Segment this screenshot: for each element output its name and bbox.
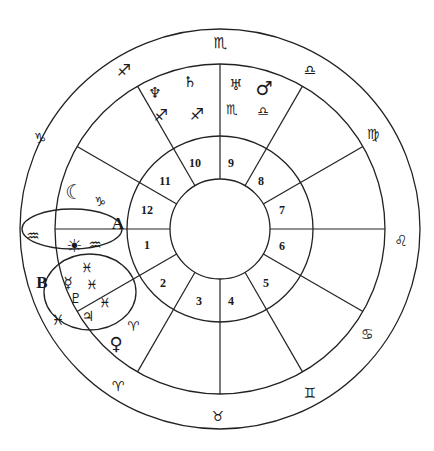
aries-icon: ♈ [112, 378, 125, 394]
cancer-icon: ♋ [361, 326, 374, 342]
taurus-icon: ♉ [212, 408, 225, 424]
planet-placements: ♆ ♄ ♐ ♐ ♅ ♂ ♏ ♎ ☾ ♑ ☀ ♒ ♓ ☿ ♓ ♇ ♓ ♃ ♓ ♈ … [52, 73, 273, 354]
house-number: 10 [189, 156, 201, 170]
saturn-icon: ♄ [183, 73, 196, 91]
house-cusps [55, 64, 385, 394]
leo-icon: ♌ [394, 232, 407, 250]
virgo-icon: ♍ [367, 126, 380, 142]
scorpio-icon: ♏ [226, 102, 238, 117]
sagittarius-icon: ♐ [190, 105, 204, 124]
aries-icon: ♈ [127, 319, 139, 334]
house-number: 11 [159, 174, 170, 188]
capricorn-icon: ♑ [34, 130, 47, 146]
house-number: 9 [228, 156, 234, 170]
libra-icon: ♎ [304, 62, 317, 78]
sun-icon: ☀ [66, 235, 82, 256]
house-number: 8 [258, 174, 264, 188]
pluto-icon: ♇ [70, 290, 83, 306]
capricorn-icon: ♑ [94, 194, 106, 209]
house-number: 5 [263, 276, 269, 290]
neptune-icon: ♆ [148, 84, 161, 102]
pisces-icon: ♓ [81, 260, 93, 275]
jupiter-icon: ♃ [82, 308, 95, 324]
gemini-icon: ♊ [304, 385, 317, 401]
highlight-label-b: B [36, 273, 47, 292]
uranus-icon: ♅ [229, 76, 242, 94]
pisces-icon: ♓ [99, 295, 111, 310]
scorpio-icon: ♏ [213, 34, 227, 52]
natal-chart-wheel: 1 2 3 4 5 6 7 8 9 10 11 12 ♏ ♎ ♍ ♌ ♋ ♊ ♉… [0, 0, 434, 451]
house-number: 3 [196, 294, 202, 308]
pisces-icon: ♓ [52, 312, 65, 328]
house-number: 4 [228, 294, 234, 308]
core-circle [170, 179, 270, 279]
house-numbers: 1 2 3 4 5 6 7 8 9 10 11 12 [141, 156, 285, 308]
house-number: 2 [160, 276, 166, 290]
house-number: 7 [279, 203, 285, 217]
mars-icon: ♂ [255, 77, 272, 99]
house-number: 6 [279, 239, 285, 253]
house-number: 12 [141, 203, 153, 217]
house-number: 1 [144, 238, 150, 252]
moon-icon: ☾ [65, 180, 83, 204]
sagittarius-icon: ♐ [154, 106, 168, 125]
aquarius-icon: ♒ [26, 227, 39, 245]
aquarius-icon: ♒ [88, 236, 101, 254]
pisces-icon: ♓ [86, 277, 98, 292]
libra-icon: ♎ [257, 104, 269, 119]
highlight-label-a: A [112, 214, 125, 233]
venus-icon: ♀ [109, 333, 122, 354]
sagittarius-icon: ♐ [117, 61, 131, 80]
